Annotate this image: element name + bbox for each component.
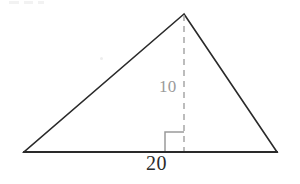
altitude-length-label: 10: [159, 78, 177, 95]
base-length-label: 20: [146, 153, 167, 173]
triangle-outline: [24, 14, 277, 152]
geometry-figure-canvas: 10 20: [0, 0, 300, 184]
right-angle-marker-icon: [165, 132, 184, 151]
